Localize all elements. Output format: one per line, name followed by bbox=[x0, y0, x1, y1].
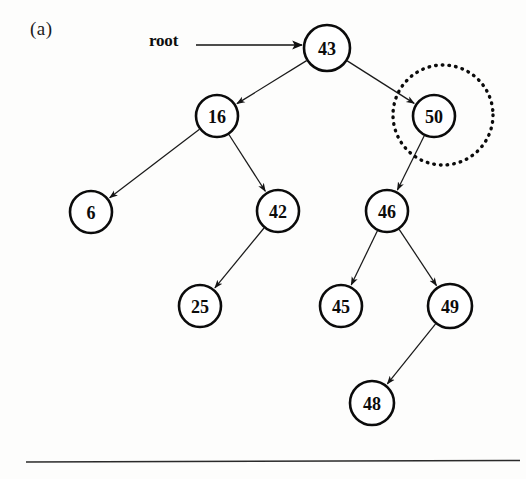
tree-node-42: 42 bbox=[257, 190, 299, 232]
tree-edge-42-to-25 bbox=[215, 228, 264, 288]
node-layer: 4316506424625454948 bbox=[70, 25, 472, 425]
node-label-16: 16 bbox=[208, 107, 226, 127]
node-label-48: 48 bbox=[363, 394, 381, 414]
tree-node-45: 45 bbox=[320, 285, 362, 327]
tree-node-6: 6 bbox=[70, 191, 112, 233]
tree-edge-43-to-50 bbox=[347, 61, 414, 104]
node-label-42: 42 bbox=[269, 202, 287, 222]
tree-edge-46-to-49 bbox=[399, 229, 436, 285]
node-label-49: 49 bbox=[441, 297, 459, 317]
tree-node-25: 25 bbox=[179, 285, 221, 327]
separator-rule bbox=[26, 461, 520, 463]
node-label-25: 25 bbox=[191, 297, 209, 317]
figure-canvas: (a) root 4316506424625454948 bbox=[0, 0, 526, 479]
node-label-46: 46 bbox=[378, 202, 396, 222]
tree-node-43: 43 bbox=[304, 25, 350, 71]
tree-edge-16-to-6 bbox=[110, 129, 200, 197]
tree-node-16: 16 bbox=[196, 95, 238, 137]
node-label-45: 45 bbox=[332, 297, 350, 317]
binary-search-tree-diagram: 4316506424625454948 bbox=[0, 0, 526, 479]
tree-edge-43-to-16 bbox=[237, 61, 307, 104]
node-label-6: 6 bbox=[87, 203, 96, 223]
tree-edge-49-to-48 bbox=[387, 324, 435, 384]
separator-rule-layer bbox=[26, 461, 520, 463]
node-label-43: 43 bbox=[318, 39, 336, 59]
node-label-50: 50 bbox=[425, 107, 443, 127]
tree-edge-16-to-42 bbox=[229, 135, 265, 192]
tree-node-46: 46 bbox=[366, 190, 408, 232]
tree-node-50: 50 bbox=[413, 95, 455, 137]
tree-node-48: 48 bbox=[350, 381, 394, 425]
tree-node-49: 49 bbox=[428, 284, 472, 328]
tree-edge-46-to-45 bbox=[351, 231, 377, 285]
